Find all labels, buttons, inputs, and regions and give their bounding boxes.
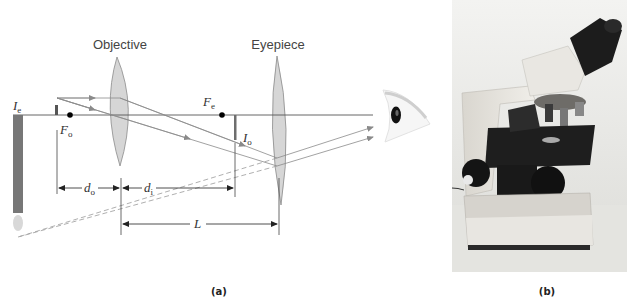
microscope-stage xyxy=(485,125,595,168)
object-distance-dimension: do xyxy=(59,180,119,197)
eye-icon xyxy=(383,90,430,142)
svg-text:do: do xyxy=(84,180,96,197)
intermediate-image-bar xyxy=(234,115,237,140)
final-image-arrowhead xyxy=(13,215,23,231)
compound-microscope-figure: Objective Eyepiece xyxy=(0,0,633,307)
light-rays xyxy=(57,98,373,166)
image-distance-dimension: di xyxy=(123,180,233,197)
focal-point-eyepiece xyxy=(219,112,225,118)
intermediate-image-label: Io xyxy=(242,130,252,147)
focal-point-objective xyxy=(67,112,73,118)
focal-point-eyepiece-label: Fe xyxy=(202,94,215,111)
focal-point-objective-label: Fo xyxy=(59,122,73,139)
svg-text:di: di xyxy=(144,180,154,197)
object-bar xyxy=(55,105,58,115)
svg-text:L: L xyxy=(193,216,201,231)
panel-b-label: (b) xyxy=(539,286,555,297)
objective-label: Objective xyxy=(93,37,147,52)
panel-a-label: (a) xyxy=(211,286,227,297)
objective-lens xyxy=(110,57,128,166)
final-image-label: Ie xyxy=(12,98,21,115)
eyepiece-label: Eyepiece xyxy=(251,37,304,52)
final-image-bar xyxy=(13,115,23,213)
lens-separation-dimension: L xyxy=(123,216,277,231)
panel-a-ray-diagram: Objective Eyepiece xyxy=(12,37,430,297)
panel-b-microscope-photo: (b) xyxy=(452,0,627,297)
